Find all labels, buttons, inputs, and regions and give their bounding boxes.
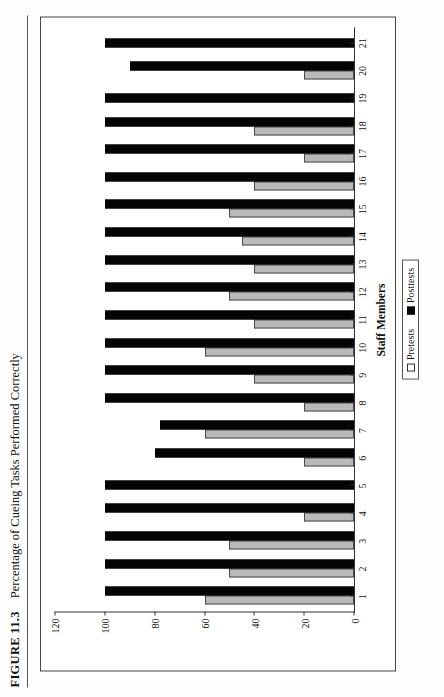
bar-pretests bbox=[254, 264, 354, 273]
figure-container: FIGURE 11.3 Percentage of Cueing Tasks P… bbox=[0, 0, 444, 697]
y-axis-title: Percentage bbox=[0, 642, 55, 660]
legend-item-label: Posttests bbox=[405, 267, 416, 302]
x-axis-tick-label: 20 bbox=[357, 57, 371, 85]
bar-pretests bbox=[304, 457, 354, 466]
bar-posttests bbox=[130, 61, 354, 70]
bar-pretests bbox=[229, 568, 354, 577]
x-axis-tick-label: 4 bbox=[357, 499, 371, 527]
y-axis-tick-label: 0 bbox=[350, 618, 361, 623]
bar-group bbox=[55, 195, 354, 223]
x-axis-tick-label: 10 bbox=[357, 333, 371, 361]
bar-pretests bbox=[254, 181, 354, 190]
x-axis-tick-mark bbox=[351, 140, 355, 168]
y-axis-tick-mark bbox=[55, 611, 56, 615]
x-axis-tick-mark bbox=[351, 112, 355, 140]
x-axis-tick-label: 8 bbox=[357, 389, 371, 417]
bar-posttests bbox=[105, 255, 354, 264]
bar-posttests bbox=[105, 38, 354, 47]
figure-page: FIGURE 11.3 Percentage of Cueing Tasks P… bbox=[0, 0, 444, 697]
bar-pretests bbox=[205, 429, 355, 438]
bar-posttests bbox=[105, 117, 354, 126]
chart-frame: Percentage 020406080100120 1234567891011… bbox=[40, 16, 396, 671]
y-axis-tick-mark bbox=[154, 611, 155, 615]
bar-posttests bbox=[105, 310, 354, 319]
x-axis-tick-marks bbox=[351, 27, 355, 612]
bar-pretests bbox=[205, 347, 355, 356]
bar-posttests bbox=[160, 420, 354, 429]
x-axis-tick-label: 18 bbox=[357, 112, 371, 140]
y-axis-tick-labels: 020406080100120 bbox=[55, 614, 355, 644]
legend-item-label: Pretests bbox=[405, 328, 416, 359]
bar-posttests bbox=[105, 338, 354, 347]
x-axis-tick-label: 2 bbox=[357, 555, 371, 583]
y-axis-tick-mark bbox=[254, 611, 255, 615]
y-axis-tick-label: 40 bbox=[250, 618, 261, 628]
bar-pretests bbox=[205, 595, 355, 604]
x-axis-tick-label: 9 bbox=[357, 361, 371, 389]
bar-group bbox=[55, 167, 354, 195]
bar-posttests bbox=[105, 586, 354, 595]
bar-pretests bbox=[304, 153, 354, 162]
bar-posttests bbox=[105, 199, 354, 208]
x-axis-tick-label: 5 bbox=[357, 472, 371, 500]
x-axis-tick-mark bbox=[351, 306, 355, 334]
x-axis-tick-label: 7 bbox=[357, 416, 371, 444]
y-axis-tick-label: 100 bbox=[100, 618, 111, 633]
y-axis-tick-mark bbox=[304, 611, 305, 615]
x-axis-tick-mark bbox=[351, 57, 355, 85]
y-axis-tick-label: 60 bbox=[200, 618, 211, 628]
x-axis-tick-mark bbox=[351, 444, 355, 472]
x-axis-tick-mark bbox=[351, 250, 355, 278]
x-axis-tick-mark bbox=[351, 84, 355, 112]
x-axis-tick-label: 12 bbox=[357, 278, 371, 306]
x-axis-tick-label: 3 bbox=[357, 527, 371, 555]
x-axis-tick-mark bbox=[351, 333, 355, 361]
x-axis-tick-label: 19 bbox=[357, 84, 371, 112]
bar-pretests bbox=[304, 402, 354, 411]
chart-legend: PretestsPosttests bbox=[402, 259, 419, 379]
bar-group bbox=[55, 139, 354, 167]
x-axis-tick-label: 14 bbox=[357, 223, 371, 251]
bar-posttests bbox=[105, 93, 354, 102]
x-axis-tick-label: 1 bbox=[357, 582, 371, 610]
x-axis-title: Staff Members bbox=[375, 27, 387, 612]
x-axis-tick-mark bbox=[351, 416, 355, 444]
bar-group bbox=[55, 84, 354, 112]
x-axis-tick-label: 16 bbox=[357, 167, 371, 195]
bar-posttests bbox=[105, 172, 354, 181]
filled-square-icon bbox=[407, 306, 415, 314]
bar-posttests bbox=[155, 448, 354, 457]
x-axis-tick-mark bbox=[351, 555, 355, 583]
bar-posttests bbox=[105, 559, 354, 568]
y-axis-tick-marks bbox=[55, 611, 354, 615]
bar-pretests bbox=[229, 208, 354, 217]
bar-group bbox=[55, 416, 354, 444]
x-axis-tick-mark bbox=[351, 167, 355, 195]
caption-divider bbox=[27, 15, 28, 687]
x-axis-tick-mark bbox=[351, 223, 355, 251]
figure-title: Percentage of Cueing Tasks Performed Cor… bbox=[8, 353, 22, 598]
x-axis-tick-mark bbox=[351, 361, 355, 389]
y-axis-tick-label: 20 bbox=[300, 618, 311, 628]
x-axis-tick-mark bbox=[351, 389, 355, 417]
bar-pretests bbox=[254, 374, 354, 383]
bar-group bbox=[55, 526, 354, 554]
x-axis-tick-labels: 123456789101112131415161718192021 bbox=[357, 27, 371, 612]
bar-posttests bbox=[105, 282, 354, 291]
figure-caption: FIGURE 11.3 Percentage of Cueing Tasks P… bbox=[8, 17, 23, 687]
bar-group bbox=[55, 57, 354, 85]
bar-group bbox=[55, 360, 354, 388]
plot-area bbox=[55, 27, 355, 612]
bar-group bbox=[55, 29, 354, 57]
x-axis-tick-label: 11 bbox=[357, 306, 371, 334]
bar-group bbox=[55, 388, 354, 416]
bar-group bbox=[55, 278, 354, 306]
x-axis-tick-label: 6 bbox=[357, 444, 371, 472]
bar-posttests bbox=[105, 531, 354, 540]
bar-posttests bbox=[105, 365, 354, 374]
legend-item: Pretests bbox=[405, 328, 416, 371]
legend-item: Posttests bbox=[405, 267, 416, 314]
bar-pretests bbox=[254, 319, 354, 328]
bar-group bbox=[55, 250, 354, 278]
bar-pretests bbox=[229, 291, 354, 300]
